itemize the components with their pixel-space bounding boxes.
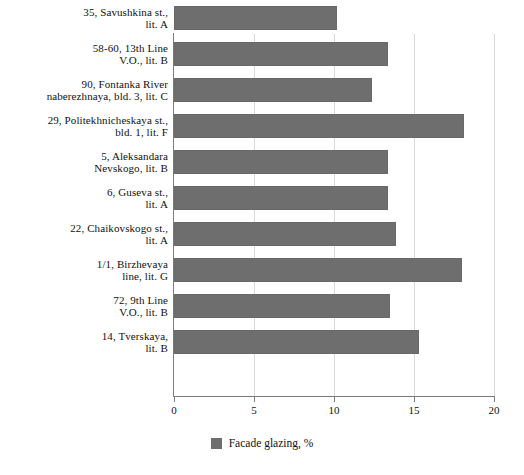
bar-row: 29, Politekhnicheskaya st.,bld. 1, lit. … (0, 108, 524, 144)
x-tick-mark (414, 396, 415, 402)
category-label-line: lit. A (145, 234, 168, 247)
bar-row: 6, Guseva st.,lit. A (0, 180, 524, 216)
category-label: 58-60, 13th LineV.O., lit. B (0, 36, 168, 72)
bar-row: 90, Fontanka Rivernaberezhnaya, bld. 3, … (0, 72, 524, 108)
bar (174, 222, 396, 246)
category-label: 72, 9th LineV.O., lit. B (0, 288, 168, 324)
bar-row: 1/1, Birzhevayaline, lit. G (0, 252, 524, 288)
legend-label: Facade glazing, % (229, 437, 314, 449)
bar (174, 6, 337, 30)
category-label-line: V.O., lit. B (119, 54, 168, 67)
category-label: 6, Guseva st.,lit. A (0, 180, 168, 216)
category-label-line: bld. 1, lit. F (115, 126, 168, 139)
category-label: 14, Tverskaya,lit. B (0, 324, 168, 360)
category-label: 29, Politekhnicheskaya st.,bld. 1, lit. … (0, 108, 168, 144)
category-label-line: line, lit. G (122, 270, 168, 283)
x-tick-mark (334, 396, 335, 402)
bar-row: 58-60, 13th LineV.O., lit. B (0, 36, 524, 72)
x-tick-mark (494, 396, 495, 402)
category-label-line: lit. B (145, 342, 168, 355)
legend-swatch-icon (211, 438, 222, 449)
category-label: 35, Savushkina st.,lit. A (0, 0, 168, 36)
x-tick-label: 10 (314, 404, 354, 416)
category-label-line: lit. A (145, 198, 168, 211)
bar-row: 5, AleksandaraNevskogo, lit. B (0, 144, 524, 180)
category-label: 90, Fontanka Rivernaberezhnaya, bld. 3, … (0, 72, 168, 108)
x-tick-mark (254, 396, 255, 402)
x-tick-mark (174, 396, 175, 402)
category-label-line: 6, Guseva st., (107, 186, 168, 199)
bar-chart: 35, Savushkina st.,lit. A58-60, 13th Lin… (0, 0, 524, 475)
bar (174, 186, 388, 210)
category-label-line: 22, Chaikovskogo st., (70, 222, 168, 235)
bar-row: 22, Chaikovskogo st.,lit. A (0, 216, 524, 252)
category-label-line: 90, Fontanka River (82, 78, 168, 91)
x-tick-label: 20 (474, 404, 514, 416)
category-label: 1/1, Birzhevayaline, lit. G (0, 252, 168, 288)
bar-row: 35, Savushkina st.,lit. A (0, 0, 524, 36)
bar (174, 150, 388, 174)
bar-row: 72, 9th LineV.O., lit. B (0, 288, 524, 324)
category-label-line: lit. A (145, 18, 168, 31)
bar (174, 258, 462, 282)
category-label-line: Nevskogo, lit. B (94, 162, 168, 175)
bar (174, 294, 390, 318)
category-label-line: 1/1, Birzhevaya (97, 258, 168, 271)
bar-rows: 35, Savushkina st.,lit. A58-60, 13th Lin… (0, 0, 524, 362)
bar (174, 78, 372, 102)
category-label-line: naberezhnaya, bld. 3, lit. C (47, 90, 168, 103)
category-label-line: 14, Tverskaya, (102, 330, 168, 343)
x-tick-label: 0 (154, 404, 194, 416)
bar (174, 42, 388, 66)
category-label-line: 29, Politekhnicheskaya st., (48, 114, 168, 127)
bar (174, 114, 464, 138)
category-label: 22, Chaikovskogo st.,lit. A (0, 216, 168, 252)
category-label-line: 35, Savushkina st., (83, 6, 168, 19)
category-label-line: 72, 9th Line (113, 294, 168, 307)
bar (174, 330, 419, 354)
category-label: 5, AleksandaraNevskogo, lit. B (0, 144, 168, 180)
category-label-line: V.O., lit. B (119, 306, 168, 319)
x-tick-label: 15 (394, 404, 434, 416)
category-label-line: 5, Aleksandara (101, 150, 168, 163)
category-label-line: 58-60, 13th Line (93, 42, 168, 55)
legend: Facade glazing, % (0, 437, 524, 449)
bar-row: 14, Tverskaya,lit. B (0, 324, 524, 360)
x-tick-label: 5 (234, 404, 274, 416)
